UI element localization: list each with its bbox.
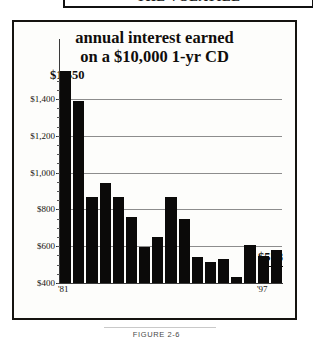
y-tick-label-600: $600 <box>37 241 55 251</box>
y-tick-label-400: $400 <box>37 278 55 288</box>
figure-caption: FIGURE 2-6 <box>0 330 313 339</box>
bar-81 <box>60 71 71 283</box>
bar-91 <box>192 257 203 283</box>
x-axis-label-first: '81 <box>58 284 69 294</box>
bar-90 <box>179 219 190 283</box>
bar-92 <box>205 262 216 283</box>
bar-86 <box>126 217 137 283</box>
bar-82 <box>73 101 84 283</box>
y-tick-label-1200: $1,200 <box>30 131 55 141</box>
bar-95 <box>244 245 255 283</box>
bar-88 <box>152 237 163 283</box>
x-axis-line <box>59 283 283 284</box>
bar-96 <box>258 256 269 283</box>
bar-87 <box>139 247 150 283</box>
y-tick-label-800: $800 <box>37 204 55 214</box>
x-axis-label-last: '97 <box>257 284 268 294</box>
y-tick-label-1000: $1,000 <box>30 168 55 178</box>
bar-84 <box>100 183 111 283</box>
figure-inner: annual interest earned on a $10,000 1-yr… <box>14 22 295 318</box>
bar-97 <box>271 250 282 283</box>
bar-85 <box>113 197 124 283</box>
top-banner: THE VOLATILE <box>63 0 313 8</box>
top-banner-title: THE VOLATILE <box>65 0 312 5</box>
bar-83 <box>86 197 97 283</box>
figure-box: annual interest earned on a $10,000 1-yr… <box>12 20 297 320</box>
plot-area: $1,400$1,200$1,000$800$600$400 <box>60 99 282 283</box>
bar-93 <box>218 259 229 283</box>
bar-89 <box>165 197 176 283</box>
y-tick-label-1400: $1,400 <box>30 94 55 104</box>
bar-series <box>60 39 282 283</box>
caption-rule <box>104 327 216 328</box>
